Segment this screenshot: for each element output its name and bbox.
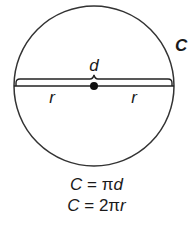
formula-diameter: C = πd [0,175,193,195]
diameter-label: d [89,56,99,75]
formula-equals: = [80,196,99,215]
formula-coefficient: 2 [99,196,108,215]
formula-lhs: C [70,175,82,194]
formula-variable: d [113,175,122,194]
radius-label-left: r [49,88,56,107]
center-point [90,82,98,90]
formula-equals: = [82,175,101,194]
radius-label-right: r [131,88,138,107]
formula-radius: C = 2πr [0,196,193,216]
pi-symbol: π [102,175,114,194]
pi-symbol: π [108,196,120,215]
formula-lhs: C [67,196,79,215]
formula-variable: r [120,196,126,215]
circumference-label: C [175,36,188,55]
